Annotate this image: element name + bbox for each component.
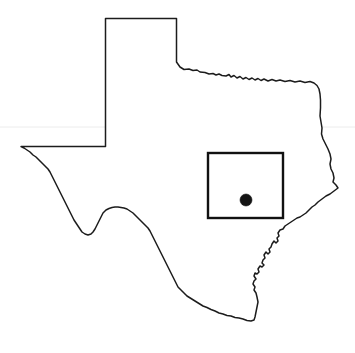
map-canvas [0, 0, 355, 353]
texas-outline-map-figure [0, 0, 355, 353]
site-location-dot [240, 194, 252, 206]
